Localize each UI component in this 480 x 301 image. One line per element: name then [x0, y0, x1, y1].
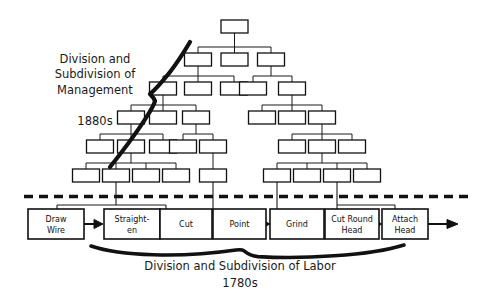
org-box [103, 169, 130, 182]
process-label-line2: en [127, 226, 137, 235]
process-step-straighten[interactable]: Straight- en [104, 209, 160, 239]
process-label-line1: Cut [179, 220, 193, 229]
process-step-point[interactable]: Point [213, 209, 266, 239]
process-label-line1: Draw [46, 215, 67, 224]
process-flow-group: Draw Wire Straight- en Cut Point [28, 209, 458, 239]
process-step-attach-head[interactable]: Attach Head [382, 209, 428, 239]
org-level-2 [185, 53, 285, 66]
org-box [240, 82, 267, 95]
arrow-icon [84, 220, 103, 229]
org-box [221, 20, 248, 33]
org-level-3 [150, 82, 306, 95]
labor-year: 1780s [100, 275, 380, 292]
org-box [279, 82, 306, 95]
process-step-grind[interactable]: Grind [270, 209, 324, 239]
org-box [258, 53, 285, 66]
org-box [133, 169, 160, 182]
org-box [309, 111, 336, 124]
org-box [163, 169, 190, 182]
process-label-line1: Point [230, 220, 250, 229]
process-label-line2: Head [342, 226, 363, 235]
labor-brace [91, 245, 404, 257]
org-box [200, 140, 227, 153]
org-box [73, 169, 100, 182]
org-level-6 [73, 169, 381, 182]
management-title: Division and Subdivision of Management [30, 52, 160, 99]
org-box [183, 111, 210, 124]
labor-label-block: Division and Subdivision of Labor 1780s [100, 258, 380, 292]
process-label-line1: Cut Round [331, 215, 373, 224]
process-step-cut[interactable]: Cut [160, 209, 212, 239]
arrow-icon [428, 220, 458, 229]
org-box [279, 111, 306, 124]
org-box [324, 169, 351, 182]
org-level-1 [221, 20, 248, 33]
process-label-line2: Head [395, 226, 416, 235]
process-label-line1: Attach [392, 215, 418, 224]
process-label-line1: Grind [286, 220, 308, 229]
org-box [200, 169, 227, 182]
diagram-canvas: Draw Wire Straight- en Cut Point [0, 0, 480, 301]
org-box [294, 169, 321, 182]
org-box [185, 53, 212, 66]
process-label-line1: Straight- [115, 215, 150, 224]
org-box [339, 140, 366, 153]
org-box [249, 111, 276, 124]
org-box [264, 169, 291, 182]
process-box[interactable] [382, 209, 428, 239]
process-label-line2: Wire [47, 226, 65, 235]
org-box [279, 140, 306, 153]
org-box [309, 140, 336, 153]
process-step-draw-wire[interactable]: Draw Wire [28, 209, 84, 239]
labor-title: Division and Subdivision of Labor [144, 259, 335, 273]
management-year: 1880s [30, 114, 160, 130]
org-box [170, 140, 197, 153]
org-box [354, 169, 381, 182]
process-box[interactable] [28, 209, 84, 239]
process-box[interactable] [325, 209, 379, 239]
management-label-block: Division and Subdivision of Management 1… [30, 36, 160, 145]
org-box [221, 53, 248, 66]
process-step-cut-round-head[interactable]: Cut Round Head [325, 209, 379, 239]
process-box[interactable] [104, 209, 160, 239]
org-box [185, 82, 212, 95]
